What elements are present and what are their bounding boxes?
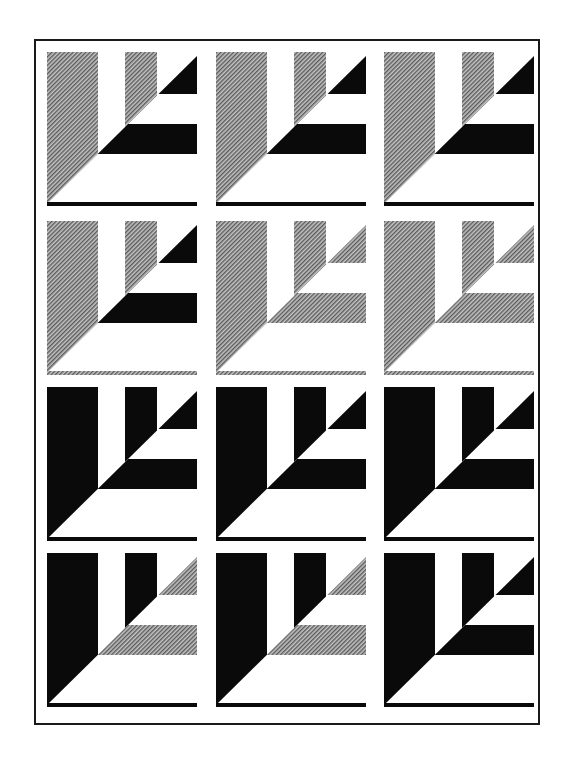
baseline-bar — [47, 537, 197, 541]
left-vertical-shape — [216, 553, 267, 705]
left-vertical-shape — [47, 553, 98, 705]
inner-vertical-shape — [294, 52, 326, 127]
tile-r3-c2 — [216, 387, 366, 543]
upper-triangle-shape — [159, 56, 198, 94]
upper-triangle-shape — [328, 557, 367, 595]
baseline-bar — [384, 371, 534, 375]
upper-triangle-shape — [496, 225, 535, 263]
tile-r4-c3 — [384, 553, 534, 709]
upper-triangle-shape — [328, 56, 367, 94]
baseline-bar — [47, 703, 197, 707]
tile-r2-c1 — [47, 221, 197, 377]
inner-vertical-shape — [294, 221, 326, 296]
baseline-bar — [384, 537, 534, 541]
horizontal-bar-shape — [98, 625, 197, 655]
inner-vertical-shape — [462, 52, 494, 127]
left-vertical-shape — [384, 52, 435, 204]
upper-triangle-shape — [496, 557, 535, 595]
baseline-bar — [216, 537, 366, 541]
horizontal-bar-shape — [435, 293, 534, 323]
tile-r4-c2 — [216, 553, 366, 709]
horizontal-bar-shape — [98, 293, 197, 323]
upper-triangle-shape — [496, 391, 535, 429]
upper-triangle-shape — [328, 225, 367, 263]
left-vertical-shape — [47, 52, 98, 204]
baseline-bar — [47, 202, 197, 206]
inner-vertical-shape — [294, 553, 326, 628]
tile-r1-c1 — [47, 52, 197, 208]
inner-vertical-shape — [125, 553, 157, 628]
baseline-bar — [216, 371, 366, 375]
baseline-bar — [384, 202, 534, 206]
tile-r1-c2 — [216, 52, 366, 208]
inner-vertical-shape — [125, 52, 157, 127]
left-vertical-shape — [216, 221, 267, 373]
baseline-bar — [216, 202, 366, 206]
inner-vertical-shape — [294, 387, 326, 462]
inner-vertical-shape — [125, 387, 157, 462]
baseline-bar — [384, 703, 534, 707]
left-vertical-shape — [216, 387, 267, 539]
left-vertical-shape — [216, 52, 267, 204]
horizontal-bar-shape — [435, 459, 534, 489]
tile-r1-c3 — [384, 52, 534, 208]
left-vertical-shape — [384, 387, 435, 539]
horizontal-bar-shape — [98, 459, 197, 489]
horizontal-bar-shape — [267, 459, 366, 489]
left-vertical-shape — [384, 553, 435, 705]
upper-triangle-shape — [159, 557, 198, 595]
left-vertical-shape — [384, 221, 435, 373]
tile-r4-c1 — [47, 553, 197, 709]
upper-triangle-shape — [328, 391, 367, 429]
baseline-bar — [216, 703, 366, 707]
inner-vertical-shape — [462, 221, 494, 296]
horizontal-bar-shape — [435, 124, 534, 154]
tile-r2-c2 — [216, 221, 366, 377]
left-vertical-shape — [47, 387, 98, 539]
upper-triangle-shape — [496, 56, 535, 94]
tile-r3-c3 — [384, 387, 534, 543]
horizontal-bar-shape — [267, 625, 366, 655]
inner-vertical-shape — [125, 221, 157, 296]
horizontal-bar-shape — [267, 293, 366, 323]
upper-triangle-shape — [159, 225, 198, 263]
upper-triangle-shape — [159, 391, 198, 429]
horizontal-bar-shape — [98, 124, 197, 154]
horizontal-bar-shape — [267, 124, 366, 154]
inner-vertical-shape — [462, 387, 494, 462]
horizontal-bar-shape — [435, 625, 534, 655]
inner-vertical-shape — [462, 553, 494, 628]
tile-r2-c3 — [384, 221, 534, 377]
baseline-bar — [47, 371, 197, 375]
tile-r3-c1 — [47, 387, 197, 543]
left-vertical-shape — [47, 221, 98, 373]
